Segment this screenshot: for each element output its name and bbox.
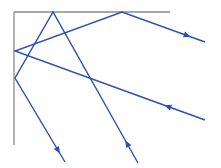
arrowhead-icon	[54, 146, 63, 155]
rays-group	[15, 12, 205, 163]
reflection-diagram	[0, 0, 221, 168]
ray-2	[15, 12, 138, 163]
diagram-canvas: Corner reflector: light rays reflecting …	[0, 0, 221, 168]
arrowhead-icon	[183, 32, 192, 40]
ray-2-path	[15, 12, 138, 163]
arrowhead-icon	[123, 139, 132, 148]
arrowhead-icon	[163, 102, 172, 110]
